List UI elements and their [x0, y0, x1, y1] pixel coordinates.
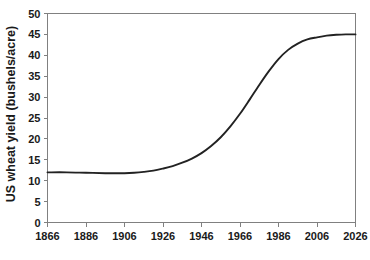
line-chart-svg: 05101520253035404550 1866188619061926194…: [0, 0, 370, 260]
x-tick-label: 1986: [266, 230, 290, 242]
x-tick-label: 1886: [74, 230, 98, 242]
x-tick-label: 1866: [35, 230, 59, 242]
x-tick-label: 1926: [151, 230, 175, 242]
y-tick-label: 20: [28, 133, 40, 145]
chart-figure: US wheat yield (bushels/acre) 0510152025…: [0, 0, 370, 260]
x-axis-ticks: 186618861906192619461966198620062026: [35, 223, 367, 242]
x-tick-label: 1966: [228, 230, 252, 242]
y-tick-label: 35: [28, 70, 40, 82]
yield-curve-line: [48, 34, 356, 173]
y-tick-label: 40: [28, 49, 40, 61]
plot-frame: [48, 14, 356, 223]
y-tick-label: 10: [28, 175, 40, 187]
x-tick-label: 1946: [189, 230, 213, 242]
x-tick-label: 1906: [112, 230, 136, 242]
y-tick-label: 25: [28, 112, 40, 124]
x-tick-label: 2006: [305, 230, 329, 242]
y-tick-label: 0: [34, 217, 40, 229]
plot-area-container: 05101520253035404550 1866188619061926194…: [0, 0, 370, 260]
plot-border: [48, 14, 356, 223]
y-tick-label: 5: [34, 196, 40, 208]
y-tick-label: 50: [28, 8, 40, 20]
y-tick-label: 45: [28, 28, 40, 40]
x-tick-label: 2026: [343, 230, 367, 242]
y-tick-label: 30: [28, 91, 40, 103]
y-tick-label: 15: [28, 154, 40, 166]
y-axis-ticks: 05101520253035404550: [28, 8, 47, 229]
